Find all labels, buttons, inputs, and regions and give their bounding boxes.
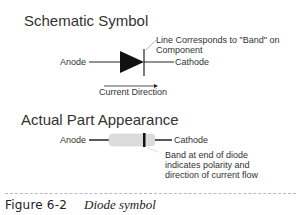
caption-divider — [5, 193, 296, 194]
schematic-anode-label: Anode — [60, 57, 86, 67]
diode-band — [143, 133, 146, 147]
diode-triangle-icon — [120, 51, 144, 73]
actual-note-line2: indicates polarity and — [165, 160, 250, 170]
actual-cathode-label: Cathode — [174, 135, 208, 145]
current-direction-label: Current Direction — [99, 87, 167, 97]
diode-diagram — [0, 0, 301, 215]
figure-number: Figure 6-2 — [5, 198, 67, 212]
actual-title: Actual Part Appearance — [21, 111, 179, 128]
schematic-cathode-label: Cathode — [175, 57, 209, 67]
figure-caption: Diode symbol — [84, 197, 156, 213]
actual-band-leader — [148, 148, 158, 152]
actual-note-line1: Band at end of diode — [165, 150, 248, 160]
band-note-line1: Line Corresponds to "Band" on — [156, 35, 279, 45]
band-leader — [146, 40, 156, 50]
actual-note-line3: direction of current flow — [165, 170, 258, 180]
band-note-line2: Component — [156, 45, 203, 55]
diode-body — [109, 134, 155, 146]
actual-anode-label: Anode — [60, 135, 86, 145]
